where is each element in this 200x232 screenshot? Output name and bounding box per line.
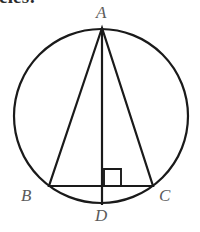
vertex-label-a: A xyxy=(96,4,106,21)
vertex-label-b: B xyxy=(21,187,31,204)
vertex-label-c: C xyxy=(159,187,170,204)
geometry-figure: cles: A B C D xyxy=(0,0,200,232)
vertex-label-d: D xyxy=(95,207,107,224)
right-angle-marker-icon xyxy=(104,169,121,186)
